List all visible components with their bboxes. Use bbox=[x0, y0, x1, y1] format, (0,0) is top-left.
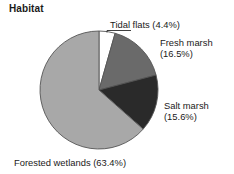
pie-label-fresh-marsh-line1: Fresh marsh bbox=[160, 37, 213, 48]
pie-label-fresh-marsh: Fresh marsh (16.5%) bbox=[160, 37, 213, 59]
pie-slice-group bbox=[40, 31, 158, 149]
pie-chart-figure: Habitat Tidal flats (4.4%) Fresh marsh (… bbox=[0, 0, 234, 174]
pie-label-salt-marsh-line1: Salt marsh bbox=[164, 100, 209, 111]
pie-label-salt-marsh-line2: (15.6%) bbox=[164, 111, 209, 122]
pie-label-salt-marsh: Salt marsh (15.6%) bbox=[164, 100, 209, 122]
pie-label-fresh-marsh-line2: (16.5%) bbox=[160, 48, 213, 59]
pie-label-forested-wetlands: Forested wetlands (63.4%) bbox=[14, 157, 126, 168]
pie-label-tidal-flats-line1: Tidal flats (4.4%) bbox=[110, 19, 180, 30]
pie-label-tidal-flats: Tidal flats (4.4%) bbox=[110, 19, 180, 30]
pie-label-forested-wetlands-line1: Forested wetlands (63.4%) bbox=[14, 157, 126, 168]
